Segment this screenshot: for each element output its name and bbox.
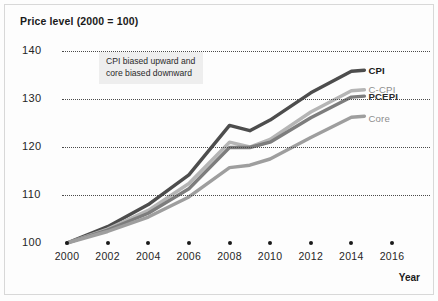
x-tick-dot-2006 [187,241,191,245]
x-tick-dot-2008 [228,241,232,245]
line-pcepi [67,96,364,243]
y-tick-140: 140 [22,44,56,56]
x-tick-dot-2016 [390,241,394,245]
x-tick-2012: 2012 [288,250,334,262]
series-label-core: Core [368,113,390,124]
x-tick-2006: 2006 [166,250,212,262]
x-tick-2008: 2008 [207,250,253,262]
chart-figure: Price level (2000 = 100) 100110120130140… [0,0,438,301]
x-tick-dot-2000 [65,241,69,245]
x-tick-2010: 2010 [247,250,293,262]
y-tick-110: 110 [22,188,56,200]
series-label-cpi: CPI [368,65,385,76]
x-tick-2002: 2002 [85,250,131,262]
plot-area: 100110120130140 200020022004200620082010… [0,0,438,301]
x-tick-2004: 2004 [125,250,171,262]
x-tick-dot-2002 [106,241,110,245]
series-label-pcepi: PCEPI [368,91,398,102]
gridline-110 [62,195,430,196]
x-tick-dot-2012 [309,241,313,245]
x-tick-2000: 2000 [44,250,90,262]
y-tick-130: 130 [22,92,56,104]
x-tick-2014: 2014 [328,250,374,262]
gridline-120 [62,147,430,148]
y-tick-120: 120 [22,140,56,152]
y-tick-100: 100 [22,236,56,248]
x-tick-2016: 2016 [369,250,415,262]
annotation-callout: CPI biased upward and core biased downwa… [99,52,203,84]
x-axis-title: Year [399,272,420,283]
